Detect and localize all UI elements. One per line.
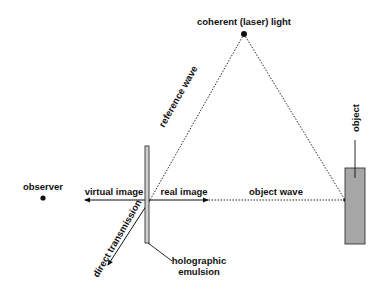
reference-wave-label: reference wave (156, 64, 199, 129)
laser-label: coherent (laser) light (197, 16, 292, 27)
object-box (345, 168, 365, 244)
observer-label: observer (23, 181, 63, 192)
object-wave-label: object wave (249, 186, 303, 197)
real-image-label: real image (161, 186, 208, 197)
emulsion-label-line2: emulsion (178, 266, 220, 277)
object-label: object (350, 103, 361, 132)
observer-dot (40, 195, 45, 200)
emulsion-label-line1: holographic (172, 255, 226, 266)
direct-transmission-label: direct transmission (90, 197, 143, 279)
virtual-image-label: virtual image (85, 186, 144, 197)
illumination-line (244, 34, 345, 200)
hologram-diagram: coherent (laser) light reference wave ob… (0, 0, 384, 297)
holographic-emulsion-plate (145, 146, 149, 243)
emulsion-leader-line (148, 243, 172, 261)
